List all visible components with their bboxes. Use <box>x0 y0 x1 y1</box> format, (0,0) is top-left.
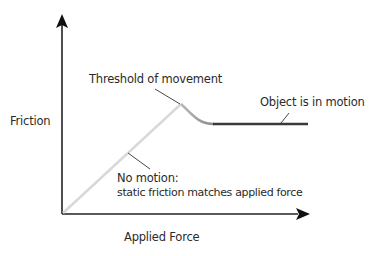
in-motion-annotation: Object is in motion <box>260 95 365 109</box>
no-motion-leader <box>128 153 150 169</box>
transition-curve <box>181 104 214 124</box>
friction-diagram <box>0 0 375 256</box>
no-motion-annotation-line2: static friction matches applied force <box>117 186 302 200</box>
in-motion-leader <box>281 113 289 123</box>
x-axis <box>62 208 310 220</box>
x-axis-arrow-icon <box>296 208 310 220</box>
threshold-leader <box>155 89 180 104</box>
x-axis-label: Applied Force <box>124 230 199 244</box>
y-axis <box>56 14 68 214</box>
no-motion-annotation-line1: No motion: <box>117 171 178 185</box>
y-axis-label: Friction <box>10 114 50 128</box>
threshold-annotation: Threshold of movement <box>89 72 222 86</box>
